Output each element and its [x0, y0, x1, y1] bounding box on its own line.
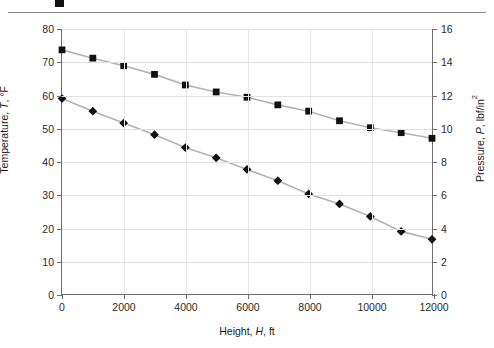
- y-axis-left-tick-label: 70: [42, 56, 54, 68]
- y-axis-right-tick: [432, 62, 437, 63]
- data-point-marker-square: [151, 71, 158, 78]
- y-axis-right-tick: [432, 162, 437, 163]
- y-axis-left-tick-label: 40: [42, 156, 54, 168]
- horizontal-gridline: [62, 262, 432, 263]
- horizontal-gridline: [62, 129, 432, 130]
- vertical-gridline: [310, 29, 311, 294]
- horizontal-gridline: [62, 62, 432, 63]
- y-axis-right-tick-label: 2: [441, 256, 447, 268]
- data-point-marker-diamond: [273, 176, 282, 185]
- y-axis-left-tick-label: 20: [42, 223, 54, 235]
- x-axis-tick-label: 2000: [112, 301, 135, 313]
- y-axis-left-tick-label: 50: [42, 123, 54, 135]
- data-point-marker-diamond: [428, 235, 437, 244]
- data-point-marker-square: [213, 89, 220, 96]
- x-axis-tick: [372, 294, 373, 299]
- y-axis-left-tick: [57, 62, 62, 63]
- y-axis-right-tick-label: 10: [441, 123, 453, 135]
- vertical-gridline: [372, 29, 373, 294]
- data-point-marker-diamond: [366, 212, 375, 221]
- x-axis-tick: [434, 294, 435, 299]
- data-point-marker-diamond: [150, 130, 159, 139]
- y-axis-left-tick: [57, 195, 62, 196]
- y-axis-left-tick-label: 80: [42, 23, 54, 35]
- x-axis-tick-label: 12000: [419, 301, 448, 313]
- y-axis-right-tick: [432, 229, 437, 230]
- data-point-marker-diamond: [335, 200, 344, 209]
- y-axis-right-tick-label: 0: [441, 289, 447, 301]
- y-axis-right-tick-label: 6: [441, 189, 447, 201]
- data-point-marker-diamond: [304, 190, 313, 199]
- top-divider-rule: [8, 12, 486, 13]
- x-axis-tick: [186, 294, 187, 299]
- y-axis-right-tick-label: 16: [441, 23, 453, 35]
- data-point-marker-diamond: [88, 107, 97, 116]
- x-axis-tick-label: 8000: [298, 301, 321, 313]
- y-axis-left-tick: [57, 29, 62, 30]
- y-axis-left-tick: [57, 96, 62, 97]
- y-axis-right-tick-label: 14: [441, 56, 453, 68]
- y-axis-right-tick-label: 4: [441, 223, 447, 235]
- y-axis-right-tick: [432, 195, 437, 196]
- y-axis-left-tick-label: 0: [48, 289, 54, 301]
- data-point-marker-square: [89, 55, 96, 62]
- data-point-marker-square: [336, 117, 343, 124]
- x-axis-tick-label: 0: [59, 301, 65, 313]
- data-point-marker-diamond: [243, 165, 252, 174]
- horizontal-gridline: [62, 162, 432, 163]
- y-axis-right-tick: [432, 262, 437, 263]
- x-axis-tick-label: 6000: [236, 301, 259, 313]
- x-axis-tick-label: 10000: [357, 301, 386, 313]
- vertical-gridline: [124, 29, 125, 294]
- y-axis-left-tick: [57, 262, 62, 263]
- data-point-marker-square: [398, 129, 405, 136]
- y-axis-right-tick-label: 12: [441, 90, 453, 102]
- horizontal-gridline: [62, 29, 432, 30]
- data-point-marker-square: [429, 135, 436, 142]
- data-point-marker-square: [305, 108, 312, 115]
- y-axis-left-tick-label: 10: [42, 256, 54, 268]
- x-axis-tick: [248, 294, 249, 299]
- y-axis-left-tick: [57, 162, 62, 163]
- vertical-gridline: [248, 29, 249, 294]
- y-axis-left-title: Temperature, T, °F: [0, 86, 14, 174]
- y-axis-right-tick-label: 8: [441, 156, 447, 168]
- y-axis-right-title: Pressure, P, lbf/in2: [470, 95, 486, 182]
- x-axis-title: Height, H, ft: [61, 325, 433, 337]
- y-axis-left-tick-label: 30: [42, 189, 54, 201]
- y-axis-left-tick: [57, 129, 62, 130]
- data-point-marker-square: [59, 46, 66, 53]
- horizontal-gridline: [62, 229, 432, 230]
- y-axis-left-tick: [57, 229, 62, 230]
- chart-figure: 0102030405060708002468101214160200040006…: [0, 0, 494, 348]
- data-point-marker-diamond: [212, 153, 221, 162]
- y-axis-right-tick: [432, 96, 437, 97]
- y-axis-right-tick: [432, 129, 437, 130]
- x-axis-tick-label: 4000: [174, 301, 197, 313]
- x-axis-tick: [124, 294, 125, 299]
- plot-area: 0102030405060708002468101214160200040006…: [61, 29, 433, 295]
- x-axis-tick: [310, 294, 311, 299]
- cropped-legend-marker-icon: [55, 0, 64, 7]
- y-axis-left-tick-label: 60: [42, 90, 54, 102]
- y-axis-right-tick: [432, 29, 437, 30]
- vertical-gridline: [186, 29, 187, 294]
- data-point-marker-square: [274, 101, 281, 108]
- x-axis-tick: [62, 294, 63, 299]
- horizontal-gridline: [62, 96, 432, 97]
- horizontal-gridline: [62, 195, 432, 196]
